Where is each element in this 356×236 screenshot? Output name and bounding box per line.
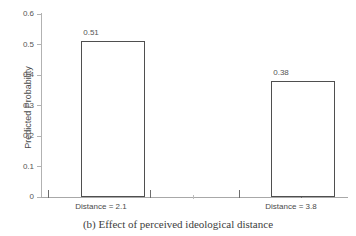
bar-value-label-2: 0.38 <box>249 69 313 77</box>
bar-value-label-1: 0.51 <box>59 29 123 37</box>
bar-distance-3-8[interactable] <box>271 81 335 197</box>
figure-caption: (b) Effect of perceived ideological dist… <box>0 218 356 231</box>
bar-chart-figure: Predicted Probability 0.6 0.5 0.4 0.3 0.… <box>0 0 356 236</box>
y-tick-label: 0.1 <box>2 163 34 171</box>
y-tick-label: 0.6 <box>2 10 34 18</box>
x-category-label-2: Distance = 3.8 <box>241 202 341 211</box>
y-tick-label: 0 <box>2 193 34 201</box>
y-axis-tick-labels: 0.6 0.5 0.4 0.3 0.2 0.1 0 <box>0 0 34 236</box>
y-tick-label: 0.2 <box>2 132 34 140</box>
y-tick-label: 0.3 <box>2 102 34 110</box>
bar-distance-2-1[interactable] <box>81 41 145 197</box>
x-category-label-1: Distance = 2.1 <box>51 202 151 211</box>
y-tick-label: 0.5 <box>2 41 34 49</box>
y-tick-label: 0.4 <box>2 71 34 79</box>
plot-area <box>41 14 348 197</box>
